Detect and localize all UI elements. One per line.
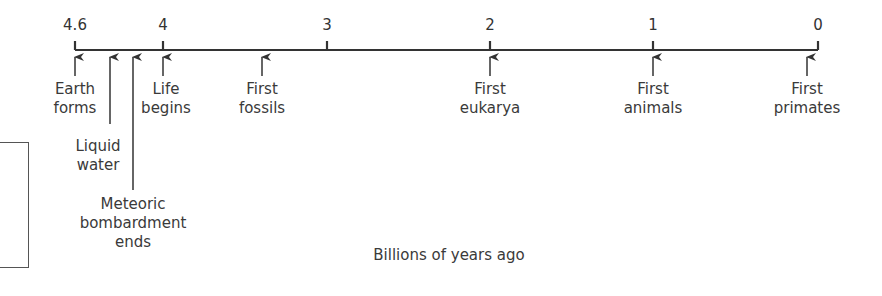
event-first-eukarya: First eukarya xyxy=(460,80,521,118)
event-label-line: Liquid xyxy=(75,137,120,156)
event-label-line: Earth xyxy=(54,80,97,99)
event-label-line: First xyxy=(774,80,841,99)
event-first-animals: First animals xyxy=(624,80,683,118)
event-label-line: primates xyxy=(774,99,841,118)
event-arrows xyxy=(75,57,807,190)
event-label-line: Meteoric xyxy=(80,195,187,214)
event-label-line: eukarya xyxy=(460,99,521,118)
event-meteoric-bombardment-ends: Meteoric bombardment ends xyxy=(80,195,187,252)
axis-label: Billions of years ago xyxy=(373,246,524,265)
event-liquid-water: Liquid water xyxy=(75,137,120,175)
tick-label-2: 2 xyxy=(485,16,495,34)
event-first-fossils: First fossils xyxy=(239,80,285,118)
event-earth-forms: Earth forms xyxy=(54,80,97,118)
event-label-line: forms xyxy=(54,99,97,118)
event-label-line: begins xyxy=(141,99,191,118)
event-label-line: bombardment xyxy=(80,214,187,233)
event-label-line: ends xyxy=(80,233,187,252)
event-label-line: First xyxy=(460,80,521,99)
event-label-line: Life xyxy=(141,80,191,99)
event-label-line: fossils xyxy=(239,99,285,118)
timeline-axis xyxy=(75,41,818,50)
event-first-primates: First primates xyxy=(774,80,841,118)
event-life-begins: Life begins xyxy=(141,80,191,118)
tick-label-4.6: 4.6 xyxy=(63,16,87,34)
event-label-line: First xyxy=(239,80,285,99)
tick-label-4: 4 xyxy=(158,16,168,34)
tick-label-0: 0 xyxy=(813,16,823,34)
event-label-line: animals xyxy=(624,99,683,118)
event-label-line: water xyxy=(75,156,120,175)
event-label-line: First xyxy=(624,80,683,99)
tick-label-3: 3 xyxy=(322,16,332,34)
tick-label-1: 1 xyxy=(648,16,658,34)
